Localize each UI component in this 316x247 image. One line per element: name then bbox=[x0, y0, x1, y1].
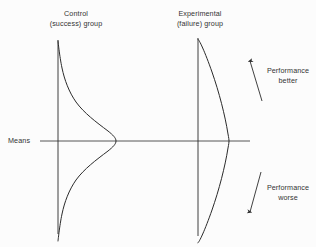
experimental-group-label: Experimental (failure) group bbox=[150, 9, 250, 28]
control-group-label: Control (success) group bbox=[30, 9, 122, 28]
figure-canvas bbox=[0, 0, 316, 247]
performance-better-label-line2: better bbox=[279, 76, 298, 85]
performance-better-arrow-icon bbox=[250, 61, 262, 101]
distribution-comparison-figure: Control (success) group Experimental (fa… bbox=[0, 0, 316, 247]
performance-worse-label-line2: worse bbox=[278, 193, 298, 202]
performance-worse-arrow-icon bbox=[250, 172, 261, 212]
performance-worse-label: Performance worse bbox=[262, 183, 314, 202]
control-group-label-line1: Control bbox=[64, 9, 88, 18]
experimental-group-label-line1: Experimental bbox=[178, 9, 221, 18]
control-group-label-line2: (success) group bbox=[50, 19, 103, 28]
performance-better-label-line1: Performance bbox=[267, 66, 309, 75]
performance-worse-label-line1: Performance bbox=[267, 183, 309, 192]
performance-better-label: Performance better bbox=[262, 66, 314, 85]
means-axis-label: Means bbox=[8, 136, 48, 146]
experimental-group-label-line2: (failure) group bbox=[177, 19, 223, 28]
